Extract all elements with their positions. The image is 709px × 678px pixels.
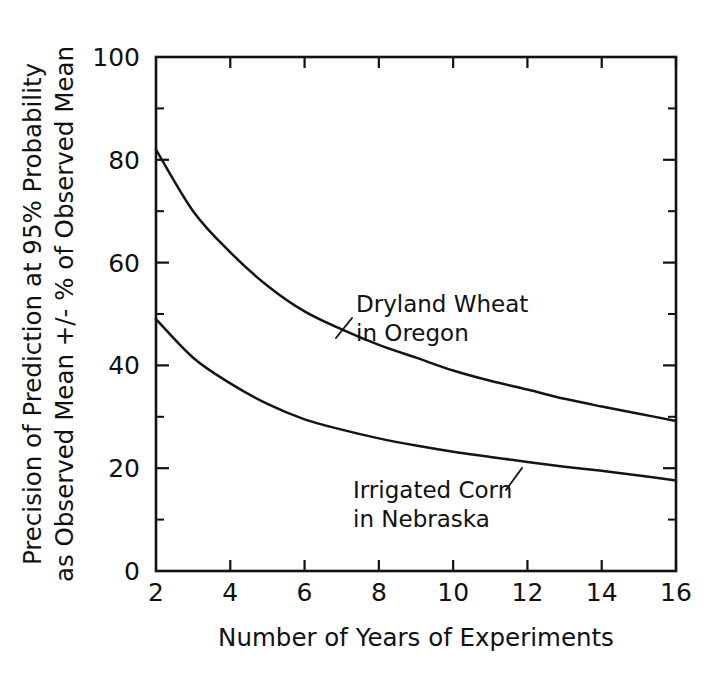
y-tick-label: 100 — [92, 43, 140, 72]
y-axis-title-line1: Precision of Prediction at 95% Probabili… — [18, 63, 47, 565]
series-line-dryland-wheat — [156, 150, 676, 421]
y-tick-label: 20 — [108, 454, 140, 483]
x-tick-label: 10 — [437, 578, 469, 607]
y-axis-title-line2: as Observed Mean +/- % of Observed Mean — [50, 46, 79, 582]
annotation-dryland-wheat-line2: in Oregon — [356, 320, 469, 346]
annotation-irrigated-corn-line1: Irrigated Corn — [353, 477, 512, 503]
y-tick-label: 0 — [124, 557, 140, 586]
annotation-irrigated-corn-line2: in Nebraska — [353, 506, 490, 532]
y-tick-label: 40 — [108, 351, 140, 380]
y-tick-labels: 020406080100 — [92, 43, 140, 586]
x-tick-label: 12 — [512, 578, 544, 607]
x-tick-label: 4 — [222, 578, 238, 607]
y-tick-label: 80 — [108, 146, 140, 175]
y-tick-label: 60 — [108, 249, 140, 278]
x-tick-label: 6 — [297, 578, 313, 607]
x-tick-label: 2 — [148, 578, 164, 607]
chart-canvas: 246810121416 020406080100 Number of Year… — [0, 0, 709, 678]
chart-figure: 246810121416 020406080100 Number of Year… — [0, 0, 709, 678]
x-axis-title: Number of Years of Experiments — [218, 623, 614, 652]
x-tick-label: 8 — [371, 578, 387, 607]
x-tick-labels: 246810121416 — [148, 578, 692, 607]
x-tick-label: 14 — [586, 578, 618, 607]
annotation-dryland-wheat-line1: Dryland Wheat — [356, 291, 528, 317]
x-tick-label: 16 — [660, 578, 692, 607]
